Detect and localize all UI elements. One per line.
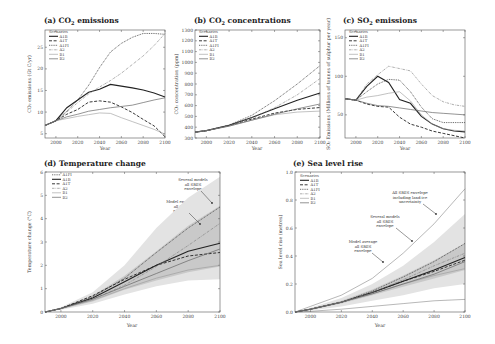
y-tick-label: 600 — [184, 103, 193, 108]
panel-b-xlabel: Year — [251, 146, 263, 151]
y-tick-label: 1300 — [182, 28, 194, 33]
annotation-arrow — [372, 253, 383, 262]
panel-d-xlabel: Year — [126, 323, 138, 328]
annotation-arrow — [423, 204, 436, 214]
x-tick-label: 2080 — [437, 140, 449, 145]
svg-text:envelope: envelope — [376, 223, 394, 228]
x-tick-label: 2100 — [159, 140, 171, 145]
y-tick-label: 500 — [184, 114, 193, 119]
x-tick-label: 2100 — [459, 314, 471, 319]
series-a2 — [195, 79, 320, 133]
panel-c-ylabel: SO₂ Emissions (Millions of tonnes of sul… — [326, 18, 332, 150]
y-tick-label: 10 — [37, 110, 43, 115]
panel-b-plot: 2000202020402060208021003004005006007008… — [182, 28, 326, 146]
arrow-head-icon — [435, 213, 437, 215]
x-tick-label: 2000 — [55, 314, 67, 319]
panel-e-annotation-model-average: Model average all SRES envelope — [349, 239, 378, 253]
series-b2 — [195, 104, 320, 132]
x-tick-label: 2020 — [223, 140, 235, 145]
y-tick-label: 5 — [40, 131, 43, 136]
panel-a-xlabel: Year — [99, 146, 111, 151]
arrow-head-icon — [382, 261, 384, 263]
y-tick-label: 5 — [40, 193, 43, 198]
y-tick-label: 1.0 — [286, 170, 293, 175]
y-tick-label: 50 — [337, 112, 343, 117]
x-tick-label: 2080 — [182, 314, 194, 319]
panel-a-legend: ScenariosA1BA1TA1FIA2B1B2 — [49, 29, 69, 61]
annotation-arrow — [396, 228, 412, 241]
y-tick-label: 25 — [37, 45, 43, 50]
svg-text:uncertainty: uncertainty — [399, 199, 422, 204]
x-tick-label: 2040 — [394, 140, 406, 145]
panel-b-ylabel: CO₂ concentration (ppm) — [174, 53, 179, 114]
y-tick-label: 4 — [40, 216, 43, 221]
legend-item: B2 — [60, 56, 66, 61]
panel-a-title: (a) CO2 emissions — [44, 16, 119, 26]
x-tick-label: 2100 — [459, 140, 471, 145]
panel-e-plot: 2000202020402060208021000.00.20.40.60.81… — [286, 170, 471, 320]
series-a1t — [345, 99, 465, 138]
panel-c-legend: ScenariosA1BA1TA1FIA2B1B2 — [349, 29, 369, 61]
x-tick-label: 2060 — [116, 140, 128, 145]
arrow-head-icon — [211, 202, 213, 204]
x-tick-label: 2000 — [350, 140, 362, 145]
panel-e-annotation-all-sres: All SRES envelope including land-ice unc… — [391, 190, 428, 204]
x-tick-label: 2000 — [305, 314, 317, 319]
y-tick-label: 300 — [184, 136, 193, 141]
y-tick-label: 3 — [40, 240, 43, 245]
y-tick-label: 0.0 — [286, 310, 293, 315]
legend-item: B2 — [210, 56, 216, 61]
x-tick-label: 2020 — [72, 140, 84, 145]
panel-c-title: (c) SO2 emissions — [343, 16, 417, 26]
series-a1b — [195, 93, 320, 132]
panel-a-plot: 200020202040206020802100510152025Scenari… — [37, 29, 171, 145]
y-tick-label: 1100 — [182, 49, 194, 54]
x-tick-label: 2000 — [201, 140, 213, 145]
x-tick-label: 2060 — [269, 140, 281, 145]
y-tick-label: 20 — [37, 66, 43, 71]
x-tick-label: 2040 — [94, 140, 106, 145]
x-tick-label: 2040 — [367, 314, 379, 319]
y-tick-label: 150 — [334, 35, 343, 40]
x-tick-label: 2100 — [214, 314, 226, 319]
y-tick-label: 0.8 — [286, 198, 293, 203]
y-tick-label: 1000 — [182, 60, 194, 65]
legend-item: B2 — [63, 195, 69, 200]
y-tick-label: 1200 — [182, 38, 194, 43]
x-tick-label: 2080 — [292, 140, 304, 145]
panel-c-xlabel: Year — [399, 146, 411, 151]
panel-d-title: (d) Temperature change — [44, 159, 146, 168]
y-tick-label: 0 — [40, 310, 43, 315]
x-tick-label: 2040 — [119, 314, 131, 319]
y-tick-label: 0.4 — [286, 254, 293, 259]
panel-e-title: (e) Sea level rise — [293, 159, 363, 168]
panel-d-plot: 2000202020402060208021000123456A1FIA1BA1… — [40, 170, 226, 320]
panel-e-ylabel: Sea level rise (metres) — [278, 214, 283, 269]
x-tick-label: 2060 — [151, 314, 163, 319]
panel-d-ylabel: Temperature change (°C) — [27, 211, 33, 273]
series-a1b — [345, 76, 465, 132]
y-tick-label: 0.6 — [286, 226, 293, 231]
x-tick-label: 2100 — [314, 140, 326, 145]
panel-a-ylabel: CO₂ emissions (Gt C/yr) — [27, 55, 33, 113]
arrow-head-icon — [411, 240, 413, 242]
svg-text:envelope: envelope — [354, 248, 372, 253]
x-tick-label: 2020 — [372, 140, 384, 145]
x-tick-label: 2080 — [428, 314, 440, 319]
climate-scenario-figure: (a) CO2 emissions (b) CO2 concentrations… — [0, 0, 495, 344]
panel-e-annotation-several-models: Several models all SRES envelope — [370, 214, 400, 228]
y-tick-label: 900 — [184, 71, 193, 76]
panel-e-legend: ScenariosA1BA1TA1FIA2B1B2 — [300, 173, 320, 205]
series-b1 — [345, 92, 465, 131]
y-tick-label: 2 — [40, 263, 43, 268]
y-tick-label: 700 — [184, 92, 193, 97]
x-tick-label: 2020 — [87, 314, 99, 319]
legend-item: B2 — [311, 200, 317, 205]
y-tick-label: 400 — [184, 125, 193, 130]
panel-b-legend: ScenariosA1BA1TA1FIA2B1B2 — [199, 29, 219, 61]
panel-d-legend: A1FIA1BA1TA2B1B2 — [52, 172, 72, 200]
y-tick-label: 100 — [334, 74, 343, 79]
panel-b-title: (b) CO2 concentrations — [194, 16, 291, 26]
x-tick-label: 2060 — [416, 140, 428, 145]
y-tick-label: 6 — [40, 170, 43, 175]
